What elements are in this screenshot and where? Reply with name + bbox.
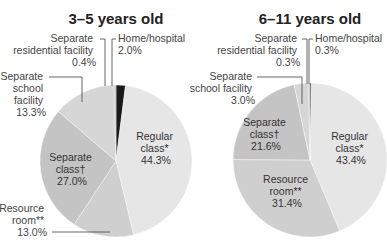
label-regular: Regular class* 43.4% [331, 130, 371, 166]
chart-3-5-years: 3–5 years old Separate residential facil… [0, 10, 192, 238]
label-regular: Regular class* 44.3% [136, 130, 176, 166]
chart-title: 6–11 years old [259, 10, 362, 27]
label-sepschool: Separate school facility 13.3% [0, 70, 46, 118]
chart-6-11-years: 6–11 years old Separate residential faci… [190, 10, 387, 237]
label-home: Home/hospital 0.3% [315, 32, 385, 56]
label-sepschool: Separate school facility 3.0% [190, 70, 255, 106]
pie-charts: 3–5 years old Separate residential facil… [0, 0, 387, 243]
chart-title: 3–5 years old [68, 10, 163, 27]
leader-home [112, 39, 116, 86]
leader-residential [302, 39, 307, 84]
leader-residential [100, 39, 105, 86]
label-resource: Resource room** 13.0% [0, 202, 47, 238]
label-home: Home/hospital 2.0% [118, 32, 188, 56]
label-residential: Separate residential facility 0.4% [13, 32, 96, 68]
leader-home [309, 39, 313, 84]
label-residential: Separate residential facility 0.3% [217, 32, 300, 68]
